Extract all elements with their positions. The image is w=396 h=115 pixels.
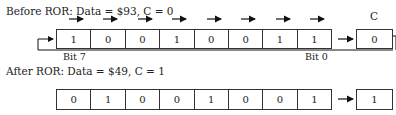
bit-cell: 0 bbox=[229, 30, 263, 48]
after-label: After ROR: Data = $49, C = 1 bbox=[6, 65, 165, 77]
bit-cell: 1 bbox=[91, 90, 125, 109]
bit-cell: 1 bbox=[298, 30, 331, 48]
bit-cell: 1 bbox=[195, 90, 229, 109]
after-register: 0 1 0 0 1 0 0 1 bbox=[56, 89, 332, 110]
bit-cell: 1 bbox=[263, 30, 297, 48]
bit7-label: Bit 7 bbox=[63, 51, 86, 62]
bit-cell: 0 bbox=[195, 30, 229, 48]
bit-cell: 1 bbox=[160, 30, 194, 48]
before-carry-box: 0 bbox=[356, 29, 393, 49]
bit-cell: 0 bbox=[263, 90, 297, 109]
bit-cell: 0 bbox=[57, 90, 91, 109]
bit-cell: 1 bbox=[57, 30, 91, 48]
after-carry-box: 1 bbox=[356, 89, 393, 110]
bit-cell: 0 bbox=[160, 90, 194, 109]
before-register: 1 0 0 1 0 0 1 1 bbox=[56, 29, 332, 49]
bit-cell: 1 bbox=[298, 90, 331, 109]
bit-cell: 0 bbox=[126, 90, 160, 109]
bit0-label: Bit 0 bbox=[305, 51, 328, 62]
bit-cell: 0 bbox=[91, 30, 125, 48]
bit-cell: 0 bbox=[229, 90, 263, 109]
bit-cell: 0 bbox=[126, 30, 160, 48]
